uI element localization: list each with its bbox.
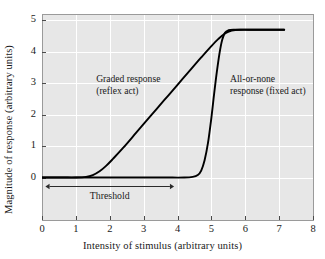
x-tick-label-5: 5 bbox=[201, 223, 221, 234]
graded-response-label: Graded response (reflex act) bbox=[96, 73, 160, 97]
y-axis-title: Magnitude of response (arbitrary units) bbox=[2, 0, 16, 259]
y-tick-label-0: 0 bbox=[22, 171, 36, 182]
all-or-none-response-label: All-or-none response (fixed act) bbox=[230, 73, 306, 97]
y-tick-label-4: 4 bbox=[22, 45, 36, 56]
x-tick-label-6: 6 bbox=[235, 223, 255, 234]
all-or-none-response-label-line2: response (fixed act) bbox=[230, 85, 306, 97]
chart-figure: Magnitude of response (arbitrary units) … bbox=[0, 0, 325, 259]
x-tick-label-4: 4 bbox=[168, 223, 188, 234]
graded-response-label-line2: (reflex act) bbox=[96, 85, 160, 97]
x-tick-label-1: 1 bbox=[66, 223, 86, 234]
all-or-none-response-label-line1: All-or-none bbox=[230, 73, 306, 85]
y-tick-label-5: 5 bbox=[22, 13, 36, 24]
x-tick-label-2: 2 bbox=[100, 223, 120, 234]
plot-canvas bbox=[0, 0, 325, 259]
x-tick-label-3: 3 bbox=[134, 223, 154, 234]
y-tick-label-1: 1 bbox=[22, 139, 36, 150]
x-tick-label-8: 8 bbox=[303, 223, 323, 234]
x-tick-label-0: 0 bbox=[32, 223, 52, 234]
y-tick-label-2: 2 bbox=[22, 108, 36, 119]
x-axis-title: Intensity of stimulus (arbitrary units) bbox=[0, 240, 325, 251]
threshold-label: Threshold bbox=[45, 190, 174, 201]
y-tick-label-3: 3 bbox=[22, 76, 36, 87]
x-tick-label-7: 7 bbox=[269, 223, 289, 234]
graded-response-label-line1: Graded response bbox=[96, 73, 160, 85]
